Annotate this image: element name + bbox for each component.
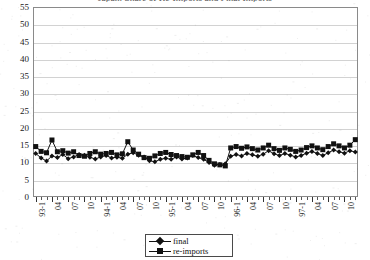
x-axis-tick-label: 96-1: [234, 202, 242, 217]
x-axis-tick: [171, 197, 172, 200]
data-point-marker: [299, 153, 304, 158]
chart-title: Japan: Share of Re-Imports and Final Imp…: [0, 0, 370, 2]
data-point-marker: [109, 150, 114, 155]
data-point-marker: [147, 156, 152, 161]
x-axis-tick-label: 04: [315, 202, 323, 210]
x-axis-tick-label: 94-1: [104, 202, 112, 217]
x-axis-tick: [95, 197, 96, 200]
data-point-marker: [250, 152, 255, 157]
data-point-marker: [315, 145, 320, 150]
data-point-marker: [131, 148, 136, 153]
data-point-marker: [185, 155, 190, 160]
x-axis-tick-label: 95-1: [169, 202, 177, 217]
data-point-marker: [49, 138, 54, 143]
x-axis-tick: [41, 197, 42, 200]
data-point-marker: [169, 157, 174, 162]
y-axis-tick-label: 55: [20, 3, 29, 12]
data-point-marker: [179, 154, 184, 159]
data-point-marker: [320, 153, 325, 158]
data-point-marker: [342, 151, 347, 156]
data-point-marker: [239, 146, 244, 151]
data-point-marker: [266, 148, 271, 153]
data-point-marker: [158, 151, 163, 156]
data-point-marker: [87, 151, 92, 156]
series-layer: [33, 7, 358, 197]
x-axis-tick: [57, 197, 58, 200]
data-point-marker: [196, 155, 201, 160]
x-axis-tick: [355, 197, 356, 200]
data-point-marker: [342, 145, 347, 150]
x-axis-tick: [252, 197, 253, 200]
data-point-marker: [282, 145, 287, 150]
data-point-marker: [261, 152, 266, 157]
data-point-marker: [77, 153, 82, 158]
data-point-marker: [326, 144, 331, 149]
data-point-marker: [347, 143, 352, 148]
data-point-marker: [114, 152, 119, 157]
legend-label-final: final: [173, 237, 189, 246]
x-axis-tick-label: 04: [185, 202, 193, 210]
x-axis-tick: [301, 197, 302, 200]
y-axis-tick-label: 15: [20, 141, 29, 150]
data-point-marker: [320, 147, 325, 152]
x-axis-tick: [47, 197, 48, 200]
data-point-marker: [255, 148, 260, 153]
data-point-marker: [33, 144, 38, 149]
x-axis-tick-label: 07: [137, 202, 145, 210]
x-axis-tick: [187, 197, 188, 200]
data-point-marker: [98, 152, 103, 157]
data-point-marker: [337, 143, 342, 148]
data-point-marker: [196, 150, 201, 155]
y-axis-tick-label: 30: [20, 89, 29, 98]
x-axis-tick: [112, 197, 113, 200]
x-axis-tick: [128, 197, 129, 200]
x-axis-tick: [177, 197, 178, 200]
data-point-marker: [309, 143, 314, 148]
y-axis-tick-label: 5: [25, 175, 30, 184]
data-point-marker: [55, 149, 60, 154]
x-axis-tick: [258, 197, 259, 200]
data-point-marker: [109, 155, 114, 160]
x-axis-tick: [74, 197, 75, 200]
x-axis-tick: [160, 197, 161, 200]
data-point-marker: [293, 154, 298, 159]
x-axis-tick: [204, 197, 205, 200]
x-axis-tick-label: 07: [267, 202, 275, 210]
y-axis-tick-label: 35: [20, 72, 29, 81]
y-axis-tick-label: 40: [20, 54, 29, 63]
data-point-marker: [244, 151, 249, 156]
data-point-marker: [239, 153, 244, 158]
legend-marker-square-icon: [149, 247, 171, 256]
data-point-marker: [158, 157, 163, 162]
data-point-marker: [293, 149, 298, 154]
x-axis-tick: [220, 197, 221, 200]
x-axis-tick: [317, 197, 318, 200]
y-axis-tick-label: 45: [20, 37, 29, 46]
x-axis-tick: [139, 197, 140, 200]
x-axis-tick: [339, 197, 340, 200]
y-axis-tick-label: 10: [20, 158, 29, 167]
data-point-marker: [201, 153, 206, 158]
data-point-marker: [331, 148, 336, 153]
x-axis-tick: [285, 197, 286, 200]
x-axis-tick-label: 10: [218, 202, 226, 210]
x-axis-tick: [242, 197, 243, 200]
x-axis-tick-label: 10: [348, 202, 356, 210]
x-axis-tick-label: 10: [153, 202, 161, 210]
data-point-marker: [152, 153, 157, 158]
data-point-marker: [277, 148, 282, 153]
data-point-marker: [93, 157, 98, 162]
data-point-marker: [55, 155, 60, 160]
legend-marker-diamond-icon: [149, 237, 171, 246]
data-point-marker: [353, 150, 358, 155]
data-point-marker: [282, 151, 287, 156]
data-point-marker: [331, 141, 336, 146]
data-point-marker: [71, 149, 76, 154]
data-point-marker: [66, 151, 71, 156]
data-point-marker: [60, 148, 65, 153]
legend-label-re-imports: re-imports: [173, 247, 208, 256]
x-axis-tick: [225, 197, 226, 200]
data-point-marker: [169, 152, 174, 157]
data-point-marker: [228, 145, 233, 150]
legend-item-final: final: [149, 236, 189, 246]
